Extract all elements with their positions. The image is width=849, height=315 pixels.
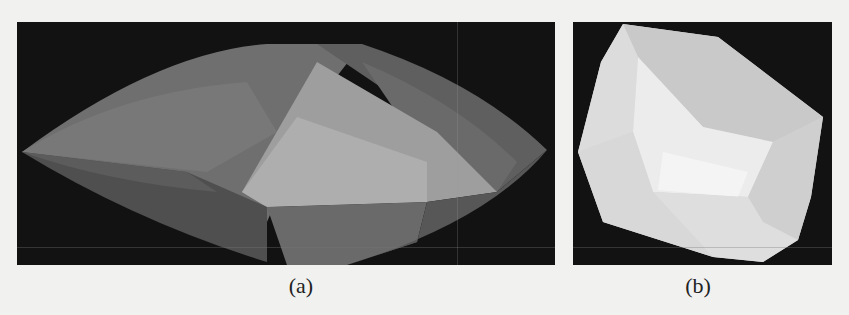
render-artifact-line — [573, 247, 832, 248]
render-artifact-line — [17, 247, 555, 248]
figure-panel-a — [17, 22, 555, 265]
figure-panel-b — [573, 22, 832, 265]
figure-caption-b: (b) — [668, 273, 728, 299]
polyhedron-render-b — [573, 22, 832, 265]
render-artifact-line — [457, 22, 458, 265]
polyhedron-render-a — [17, 22, 555, 265]
figure-caption-a: (a) — [266, 273, 336, 299]
